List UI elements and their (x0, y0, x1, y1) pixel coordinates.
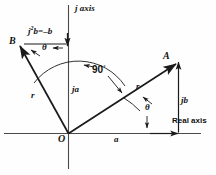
vector-b-arrow (20, 46, 69, 134)
vector-b-magnitude-label: r (31, 91, 35, 100)
right-angle-arc (34, 61, 125, 86)
theta-a-arc (124, 98, 140, 111)
right-angle-leader-right (108, 76, 122, 93)
imaginary-axis-label: j axis (75, 4, 95, 13)
a-component-label: a (114, 135, 119, 144)
j2b-suffix: b=–b (34, 26, 53, 36)
theta-b-label: θ (42, 43, 47, 52)
vector-a-magnitude-label: r (136, 82, 140, 91)
vector-b-label: B (9, 36, 16, 46)
j2b-component-label: j2b=–b (28, 25, 52, 36)
right-angle-unit: ° (103, 64, 105, 70)
vector-a-label: A (163, 51, 170, 61)
theta-a-label: θ (145, 103, 150, 112)
real-axis-label: Real axis (172, 117, 207, 125)
origin-label: O (58, 134, 65, 144)
complex-plane-diagram: j axis Real axis O A B r r θ θ jb a ja j… (0, 0, 216, 175)
theta-b-leader (31, 50, 40, 56)
right-angle-label: 90° (92, 64, 106, 75)
right-angle-value: 90 (92, 64, 103, 75)
jb-component-label: jb (181, 96, 188, 105)
ja-component-label: ja (72, 85, 79, 94)
imaginary-axis-label-text: j axis (75, 3, 95, 13)
vector-a-arrow (69, 64, 177, 134)
